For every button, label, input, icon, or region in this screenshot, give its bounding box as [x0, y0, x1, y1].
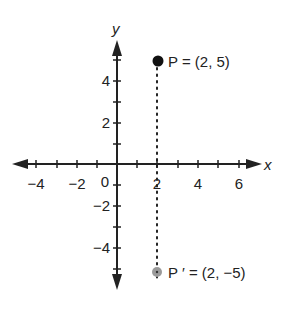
origin-label: 0	[101, 173, 109, 190]
x-tick-label: 4	[194, 175, 202, 192]
y-axis-down-arrow-icon	[112, 274, 122, 290]
y-axis-up-arrow-icon	[112, 40, 122, 56]
point-p	[153, 56, 164, 67]
x-axis-label: x	[263, 156, 272, 173]
point-p-label: P = (2, 5)	[168, 53, 230, 70]
y-tick-label: 4	[102, 72, 110, 89]
x-tick-label: −4	[27, 175, 44, 192]
y-tick-label: 2	[102, 114, 110, 131]
coordinate-plane: −4 −2 0 2 4 6 4 2 −2 −4 x y P = (2, 5) P…	[0, 0, 296, 311]
y-tick-label: −2	[93, 197, 110, 214]
x-tick-label: 6	[235, 175, 243, 192]
x-axis-left-arrow-icon	[12, 159, 28, 169]
x-tick-label: −2	[68, 175, 85, 192]
y-tick-label: −4	[93, 239, 110, 256]
x-axis-right-arrow-icon	[246, 159, 262, 169]
y-axis-label: y	[111, 20, 121, 37]
point-p-prime-label: P ′ = (2, −5)	[168, 264, 246, 281]
